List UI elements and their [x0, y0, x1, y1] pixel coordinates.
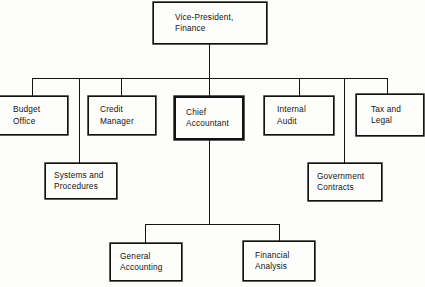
org-node-credit-manager[interactable]: Credit Manager [88, 96, 156, 135]
org-node-vice-president-finance[interactable]: Vice-President, Finance [153, 2, 267, 44]
org-node-systems-and-procedures[interactable]: Systems and Procedures [45, 163, 117, 199]
org-node-label-line1: General [111, 251, 181, 262]
org-node-label-line2: Accountant [176, 118, 242, 129]
org-node-label-line1: Chief [176, 107, 242, 118]
org-node-chief-accountant[interactable]: Chief Accountant [174, 96, 244, 140]
org-node-label-line2: Accounting [111, 262, 181, 273]
org-node-label-line1: Government [309, 171, 381, 182]
org-node-label-line2: Analysis [244, 261, 314, 272]
org-node-general-accounting[interactable]: General Accounting [110, 243, 182, 281]
org-node-label-line1: Vice-President, [154, 12, 266, 23]
org-node-label-line1: Tax and [357, 104, 423, 115]
org-node-label-line1: Financial [244, 250, 314, 261]
org-node-label-line2: Office [0, 116, 67, 127]
org-node-label-line2: Finance [154, 23, 266, 34]
org-node-internal-audit[interactable]: Internal Audit [264, 96, 334, 135]
org-node-label-line2: Legal [357, 115, 423, 126]
org-node-label-line2: Contracts [309, 182, 381, 193]
org-node-financial-analysis[interactable]: Financial Analysis [243, 241, 315, 281]
org-node-tax-and-legal[interactable]: Tax and Legal [356, 94, 424, 136]
org-node-label-line1: Budget [0, 104, 67, 115]
org-chart-canvas: Vice-President, Finance Budget Office Cr… [0, 0, 425, 287]
org-node-budget-office[interactable]: Budget Office [0, 96, 68, 135]
org-node-label-line2: Procedures [46, 181, 116, 192]
org-node-label-line1: Systems and [46, 170, 116, 181]
org-node-label-line2: Audit [265, 116, 333, 127]
org-node-label-line1: Internal [265, 104, 333, 115]
org-node-government-contracts[interactable]: Government Contracts [308, 163, 382, 201]
org-node-label-line2: Manager [89, 116, 155, 127]
org-node-label-line1: Credit [89, 104, 155, 115]
